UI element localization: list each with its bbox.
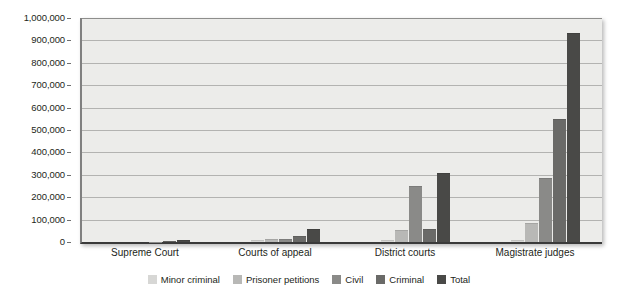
bar bbox=[525, 223, 538, 242]
y-axis-tick-mark bbox=[67, 40, 71, 41]
y-axis-tick-mark bbox=[67, 242, 71, 243]
x-axis-tick-label: District courts bbox=[340, 246, 470, 259]
y-axis-tick-mark bbox=[67, 108, 71, 109]
bar bbox=[539, 178, 552, 242]
bar bbox=[511, 240, 524, 242]
x-axis-tick-label: Supreme Court bbox=[80, 246, 210, 259]
bar bbox=[437, 173, 450, 242]
y-axis: 1,000,000900,000800,000700,000600,000500… bbox=[0, 0, 74, 250]
legend-item: Prisoner petitions bbox=[233, 274, 319, 285]
bar bbox=[381, 240, 394, 242]
y-axis-tick-mark bbox=[67, 63, 71, 64]
y-axis-tick-label: 500,000 bbox=[0, 125, 65, 135]
legend-item: Minor criminal bbox=[148, 274, 220, 285]
y-axis-tick-label: 400,000 bbox=[0, 147, 65, 157]
legend-swatch-icon bbox=[437, 275, 446, 284]
bar-group bbox=[342, 18, 472, 242]
legend-label: Prisoner petitions bbox=[246, 274, 319, 285]
y-axis-tick-label: 700,000 bbox=[0, 80, 65, 90]
y-axis-tick-label: 1,000,000 bbox=[0, 13, 65, 23]
y-axis-tick-label: 600,000 bbox=[0, 103, 65, 113]
y-axis-tick-label: 800,000 bbox=[0, 58, 65, 68]
legend-label: Civil bbox=[345, 274, 363, 285]
bar-group bbox=[212, 18, 342, 242]
y-axis-tick-label: 300,000 bbox=[0, 170, 65, 180]
bars-layer bbox=[82, 18, 602, 242]
bar bbox=[567, 33, 580, 242]
y-axis-tick-mark bbox=[67, 18, 71, 19]
y-axis-tick-label: 200,000 bbox=[0, 192, 65, 202]
y-axis-tick-label: 900,000 bbox=[0, 35, 65, 45]
legend-swatch-icon bbox=[233, 275, 242, 284]
bar bbox=[307, 229, 320, 242]
legend-label: Criminal bbox=[389, 274, 424, 285]
legend-label: Minor criminal bbox=[161, 274, 220, 285]
bar bbox=[265, 239, 278, 242]
bar bbox=[395, 230, 408, 242]
x-axis: Supreme CourtCourts of appealDistrict co… bbox=[80, 246, 600, 262]
y-axis-tick-mark bbox=[67, 175, 71, 176]
bar-group bbox=[82, 18, 212, 242]
plot-area bbox=[80, 18, 602, 244]
chart-legend: Minor criminalPrisoner petitionsCivilCri… bbox=[0, 270, 618, 288]
bar bbox=[279, 239, 292, 242]
bar bbox=[163, 241, 176, 242]
bar bbox=[293, 236, 306, 242]
y-axis-tick-mark bbox=[67, 85, 71, 86]
legend-swatch-icon bbox=[376, 275, 385, 284]
y-axis-tick-label: 100,000 bbox=[0, 215, 65, 225]
y-axis-tick-mark bbox=[67, 152, 71, 153]
legend-item: Civil bbox=[332, 274, 363, 285]
x-axis-tick-label: Courts of appeal bbox=[210, 246, 340, 259]
x-axis-tick-label: Magistrate judges bbox=[470, 246, 600, 259]
legend-swatch-icon bbox=[332, 275, 341, 284]
y-axis-tick-label: 0 bbox=[0, 237, 65, 247]
bar bbox=[251, 240, 264, 242]
legend-item: Total bbox=[437, 274, 470, 285]
bar bbox=[553, 119, 566, 242]
y-axis-tick-mark bbox=[67, 197, 71, 198]
bar-group bbox=[472, 18, 602, 242]
y-axis-tick-mark bbox=[67, 130, 71, 131]
legend-item: Criminal bbox=[376, 274, 424, 285]
y-axis-tick-mark bbox=[67, 220, 71, 221]
bar bbox=[177, 240, 190, 242]
legend-swatch-icon bbox=[148, 275, 157, 284]
legend-label: Total bbox=[450, 274, 470, 285]
bar bbox=[423, 229, 436, 242]
bar bbox=[409, 186, 422, 242]
bar-chart: 1,000,000900,000800,000700,000600,000500… bbox=[0, 0, 618, 306]
